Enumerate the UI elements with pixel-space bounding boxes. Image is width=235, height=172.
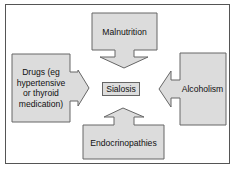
sialosis-box: Sialosis	[102, 82, 140, 96]
endocrinopathies-label: Endocrinopathies	[83, 138, 164, 149]
drugs-line-3: or thyroid	[12, 88, 70, 99]
drugs-line-2: hypertensive	[12, 78, 70, 89]
alcoholism-label: Alcoholism	[176, 84, 229, 95]
drugs-label: Drugs (eg hypertensive or thyroid medica…	[12, 67, 70, 109]
malnutrition-arrow	[92, 13, 157, 68]
drugs-line-1: Drugs (eg	[12, 67, 70, 78]
drugs-line-4: medication)	[12, 99, 70, 110]
endocrinopathies-arrow	[83, 108, 164, 159]
malnutrition-label: Malnutrition	[92, 27, 157, 38]
